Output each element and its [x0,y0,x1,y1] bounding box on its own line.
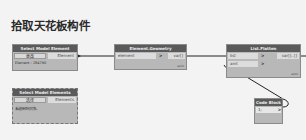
node-element-geometry[interactable]: Element.Geometry element > var[] auto [114,44,187,70]
wire-arrow-icon [78,55,81,58]
output-port-var[interactable]: var[] [168,53,185,59]
node-select-model-elements[interactable]: Select Model Elements 选择 Elements 未选择任何对… [12,88,78,124]
output-port-element[interactable]: Element [48,53,76,59]
node-header[interactable]: Code Block [255,99,282,106]
node-select-model-element[interactable]: Select Model Element 更改 Element Element … [12,44,78,71]
selected-element-info: Element : 284790 [15,61,46,65]
node-header[interactable]: List.Flatten [227,45,300,52]
chevron-right-icon: > [261,52,264,60]
chevron-right-icon: > [261,60,264,68]
output-port-var-flat[interactable]: var[]..[] [277,53,299,59]
lacing-label[interactable]: auto [291,72,298,76]
node-code-block[interactable]: Code Block 1; > [254,98,283,124]
selection-status-info: 未选择任何对象。 [15,106,39,111]
node-header[interactable]: Select Model Element [13,45,77,52]
chevron-right-icon: > [159,52,162,60]
chevron-right-icon[interactable]: > [278,106,281,114]
input-port-element[interactable]: element [116,53,156,59]
input-port-amt[interactable]: amt [228,61,258,67]
select-button[interactable]: 选择 [14,97,46,103]
change-selection-button[interactable]: 更改 [14,53,46,59]
input-port-list[interactable]: list [228,53,258,59]
node-header[interactable]: Select Model Elements [13,89,77,96]
node-list-flatten[interactable]: List.Flatten list > var[]..[] amt > auto [226,44,301,78]
node-header[interactable]: Element.Geometry [115,45,186,52]
output-port-elements[interactable]: Elements [48,97,76,103]
lacing-label[interactable]: auto [177,64,184,68]
graph-canvas[interactable]: 拾取天花板构件 Select Model Element 更改 Element … [0,0,306,140]
